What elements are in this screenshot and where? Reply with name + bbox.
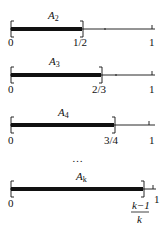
set-label: A3	[48, 55, 60, 69]
set-label: A4	[57, 106, 69, 120]
fraction-denominator: k	[137, 213, 143, 225]
interval-row-ak: Ak 0 1 k−1 k	[8, 170, 160, 225]
interval-row-a2: A2 0 1/2 1	[8, 9, 155, 48]
ellipsis: …	[72, 152, 83, 164]
interval-row-a3: A3 0 2/3 1	[8, 55, 155, 95]
one-label: 1	[149, 83, 155, 95]
one-label: 1	[149, 134, 155, 146]
end-label: 2/3	[92, 83, 107, 95]
fraction-numerator: k−1	[132, 199, 150, 211]
one-label: 1	[149, 36, 155, 48]
start-label: 0	[8, 197, 14, 209]
start-label: 0	[8, 83, 14, 95]
start-label: 0	[8, 134, 14, 146]
end-label: 1/2	[73, 36, 87, 48]
start-label: 0	[8, 36, 14, 48]
interval-diagram: A2 0 1/2 1 A3 0 2/3 1 A4 0 3/4 1 … A	[0, 0, 168, 229]
set-label: Ak	[75, 170, 87, 184]
interval-row-a4: A4 0 3/4 1	[8, 106, 155, 146]
end-label: 3/4	[104, 134, 119, 146]
one-label: 1	[154, 193, 160, 205]
set-label: A2	[47, 9, 59, 23]
end-label-fraction: k−1 k	[131, 199, 150, 225]
